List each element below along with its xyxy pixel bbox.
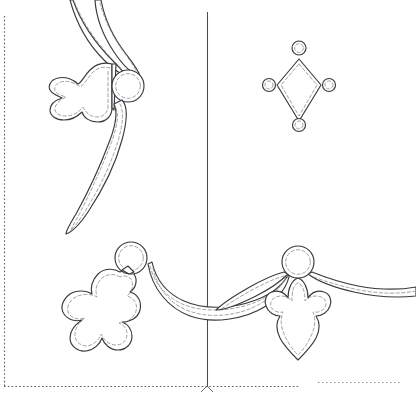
pattern-drawing-canvas <box>0 0 416 400</box>
lower-right-center-circle <box>282 246 314 278</box>
diamond-dot-top <box>292 41 306 55</box>
pattern-sheet <box>0 0 416 400</box>
upper-left-center-circle <box>112 70 144 102</box>
diamond-dot-left <box>263 79 276 92</box>
diamond-dot-bottom <box>293 119 306 132</box>
diamond-dot-right <box>323 79 336 92</box>
